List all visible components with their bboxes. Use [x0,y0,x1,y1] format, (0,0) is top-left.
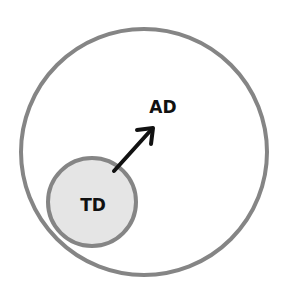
td-label: TD [80,195,106,215]
outer-circle-ad [21,29,267,275]
ad-label: AD [149,97,176,117]
set-diagram: AD TD [0,0,284,296]
